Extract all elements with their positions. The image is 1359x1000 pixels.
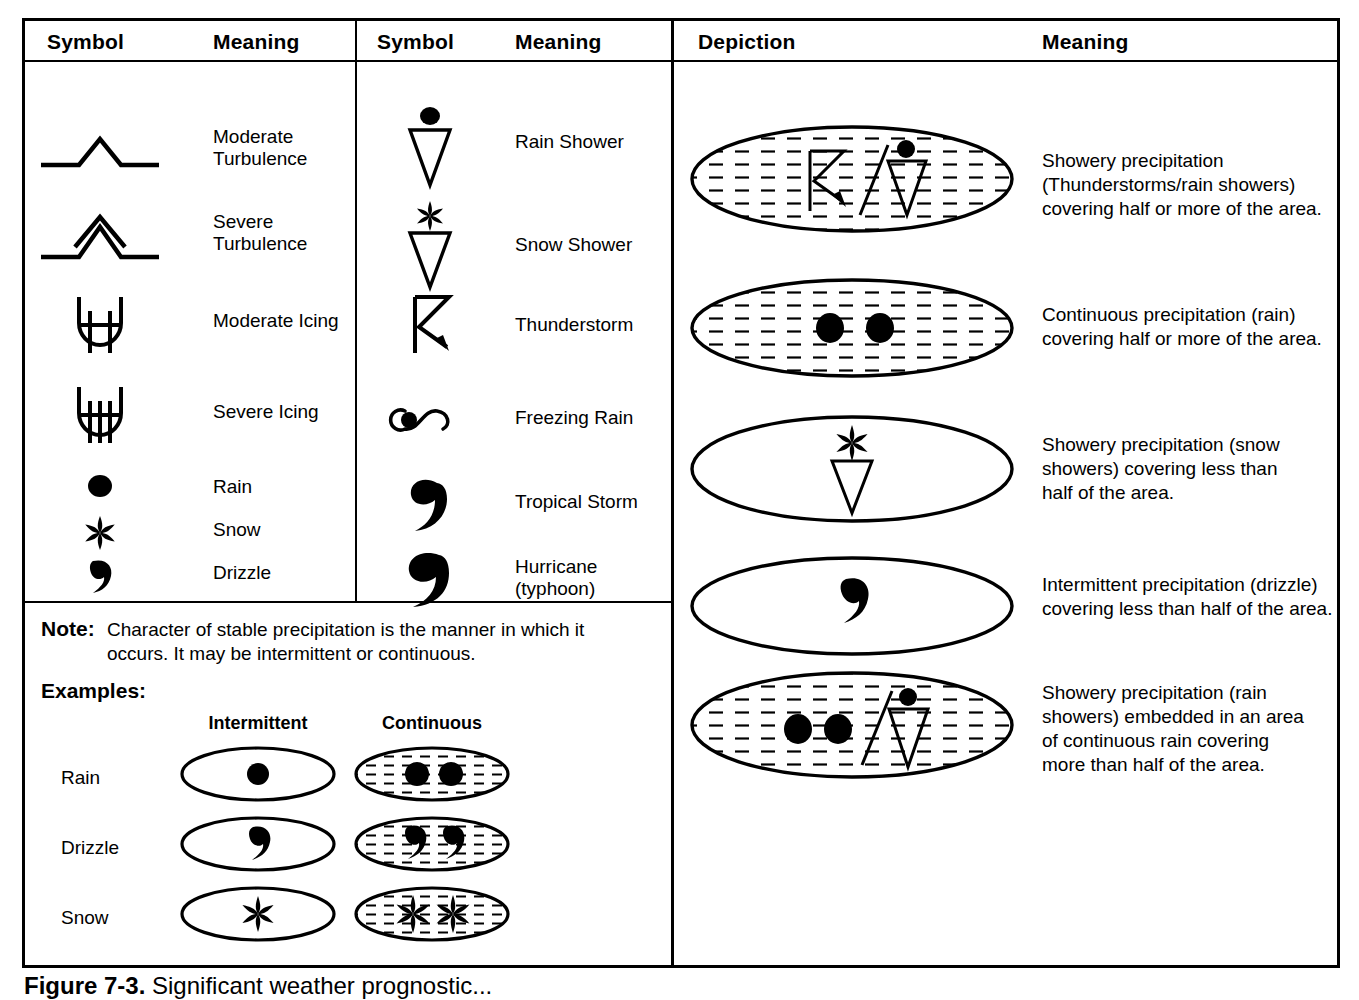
drizzle-label: Drizzle <box>213 562 271 584</box>
header-symbol-2: Symbol <box>377 30 454 54</box>
hatched-ellipse-rain-dots-and-rainshower-icon <box>682 667 1022 787</box>
examples-row-label-rain: Rain <box>61 767 181 789</box>
header-meaning-2: Meaning <box>515 30 602 54</box>
depiction-1-meaning: Showery precipitation (Thunderstorms/rai… <box>1042 149 1342 221</box>
severe-icing-label: Severe Icing <box>213 401 319 423</box>
figure-caption-text: Significant weather prognostic... <box>152 972 492 999</box>
snow-continuous-icon <box>347 883 517 945</box>
freezing-rain-label: Freezing Rain <box>515 407 633 429</box>
hurricane-icon <box>365 549 495 611</box>
hurricane-label: Hurricane (typhoon) <box>515 556 597 600</box>
severe-turbulence-icon <box>35 215 165 265</box>
plain-ellipse-drizzle-icon <box>682 551 1022 661</box>
tropical-storm-label: Tropical Storm <box>515 491 638 513</box>
depiction-4-meaning: Intermittent precipitation (drizzle) cov… <box>1042 573 1342 621</box>
depiction-3-meaning: Showery precipitation (snow showers) cov… <box>1042 433 1342 505</box>
rain-intermittent-icon <box>173 743 343 805</box>
snow-intermittent-icon <box>173 883 343 945</box>
moderate-icing-icon <box>35 293 165 359</box>
rain-dot-icon <box>35 471 165 501</box>
note-text: Character of stable precipitation is the… <box>107 618 627 666</box>
header-depiction: Depiction <box>698 30 795 54</box>
thunderstorm-icon <box>365 293 495 359</box>
plain-ellipse-snow-shower-icon <box>682 409 1022 529</box>
header-symbol-1: Symbol <box>47 30 124 54</box>
note-divider <box>25 601 671 603</box>
weather-symbols-figure: Symbol Meaning Symbol Meaning Moderate T… <box>22 18 1340 968</box>
thunderstorm-label: Thunderstorm <box>515 314 633 336</box>
snow-shower-label: Snow Shower <box>515 234 632 256</box>
depiction-table-panel: Depiction Meaning Showery precipitation … <box>671 21 1337 965</box>
figure-caption-number: Figure 7-3. <box>24 972 145 999</box>
snow-asterisk-icon <box>35 513 165 553</box>
examples-row-label-drizzle: Drizzle <box>61 837 181 859</box>
tropical-storm-icon <box>365 473 495 539</box>
rain-continuous-icon <box>347 743 517 805</box>
header-meaning-1: Meaning <box>213 30 300 54</box>
snow-shower-icon <box>365 199 495 291</box>
examples-col-intermittent: Intermittent <box>173 713 343 734</box>
moderate-turbulence-icon <box>35 129 165 175</box>
rain-shower-icon <box>365 105 495 191</box>
drizzle-intermittent-icon <box>173 813 343 875</box>
symbol-tables-panel: Symbol Meaning Symbol Meaning Moderate T… <box>25 21 671 965</box>
severe-icing-icon <box>35 383 165 449</box>
examples-label: Examples: <box>41 679 146 703</box>
snow-label: Snow <box>213 519 261 541</box>
rain-shower-label: Rain Shower <box>515 131 624 153</box>
rain-label: Rain <box>213 476 252 498</box>
hatched-ellipse-thunderstorm-rainshower-icon <box>682 119 1022 239</box>
freezing-rain-icon <box>365 399 495 439</box>
drizzle-continuous-icon <box>347 813 517 875</box>
moderate-turbulence-label: Moderate Turbulence <box>213 126 307 170</box>
hatched-ellipse-two-rain-dots-icon <box>682 273 1022 383</box>
examples-col-continuous: Continuous <box>347 713 517 734</box>
header-meaning-3: Meaning <box>1042 30 1129 54</box>
severe-turbulence-label: Severe Turbulence <box>213 211 307 255</box>
depiction-5-meaning: Showery precipitation (rain showers) emb… <box>1042 681 1342 777</box>
moderate-icing-label: Moderate Icing <box>213 310 339 332</box>
note-label: Note: <box>41 617 95 641</box>
examples-row-label-snow: Snow <box>61 907 181 929</box>
drizzle-comma-icon <box>35 555 165 597</box>
column-divider <box>355 21 357 601</box>
depiction-2-meaning: Continuous precipitation (rain) covering… <box>1042 303 1342 351</box>
figure-caption: Figure 7-3. Significant weather prognost… <box>24 972 492 1000</box>
